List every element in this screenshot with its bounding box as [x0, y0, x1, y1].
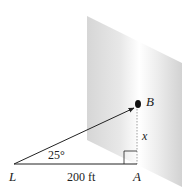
label-B: B — [146, 94, 154, 109]
wall — [87, 16, 182, 187]
triangle-diagram: B x 25° L 200 ft A — [0, 0, 195, 192]
point-B-dot — [135, 100, 141, 108]
label-L: L — [8, 169, 16, 184]
label-x: x — [141, 129, 148, 143]
label-angle: 25° — [48, 148, 65, 162]
diagram-canvas: B x 25° L 200 ft A — [0, 0, 195, 192]
label-distance: 200 ft — [67, 170, 96, 184]
label-A: A — [132, 169, 141, 184]
